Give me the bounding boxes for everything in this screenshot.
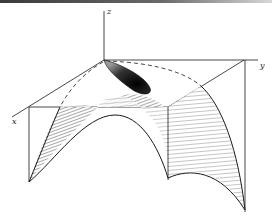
petal-lobe: [104, 60, 150, 94]
x-axis-label: x: [12, 118, 17, 126]
z-axis-label: z: [107, 8, 111, 16]
dashed-curve-left: [60, 62, 103, 107]
y-axis-label: y: [260, 62, 265, 70]
saddle-surface-figure: [0, 0, 272, 216]
